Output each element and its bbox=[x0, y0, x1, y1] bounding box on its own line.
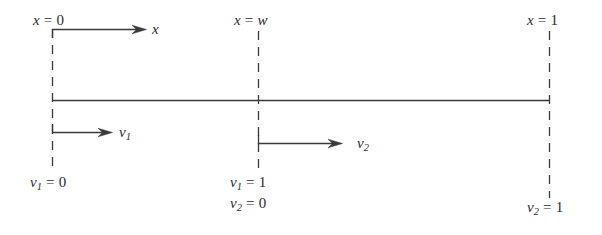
diagram-vector-graphics bbox=[0, 0, 602, 235]
label-v1-equals-0: v1 = 0 bbox=[30, 174, 66, 192]
arrow-v1 bbox=[53, 124, 113, 137]
arrow-v2 bbox=[259, 135, 343, 148]
label-arrow-v2: v2 bbox=[357, 135, 369, 153]
label-x-equals-w: x = w bbox=[234, 12, 268, 29]
label-v2-equals-0: v2 = 0 bbox=[230, 195, 266, 213]
label-v2-equals-1: v2 = 1 bbox=[527, 199, 563, 217]
arrow-x bbox=[53, 25, 147, 38]
label-x-equals-1: x = 1 bbox=[527, 12, 558, 29]
figure-canvas: x = 0 x x = w x = 1 v1 v2 v1 = 0 v1 = 1 … bbox=[0, 0, 602, 235]
label-arrow-x: x bbox=[152, 21, 159, 38]
label-v1-equals-1: v1 = 1 bbox=[230, 174, 266, 192]
label-x-equals-0: x = 0 bbox=[33, 12, 64, 29]
label-arrow-v1: v1 bbox=[119, 124, 131, 142]
